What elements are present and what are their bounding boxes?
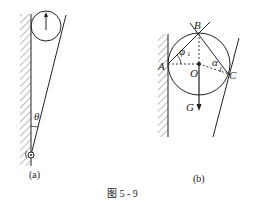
wall-hatch: [158, 34, 168, 137]
phi-subscript: 1: [187, 51, 191, 58]
panel-a-label: (a): [29, 170, 40, 180]
alpha-label: α: [212, 57, 218, 68]
arrowhead-icon: [44, 12, 48, 17]
panel-a: [20, 11, 66, 166]
panel-b-label: (b): [193, 174, 205, 184]
point-a-label: A: [158, 61, 165, 72]
theta-label: θ: [34, 111, 39, 122]
wall-hatch: [20, 14, 31, 166]
panel-b: [158, 22, 239, 137]
inclined-plane: [213, 38, 239, 137]
figure-caption: 图 5 - 9: [107, 189, 138, 199]
phi-label: φ: [179, 46, 185, 57]
inclined-rod: [31, 15, 66, 155]
theta-arc: [31, 126, 38, 127]
alpha-arc: [220, 67, 221, 72]
point-c-label: C: [229, 70, 236, 81]
gravity-label: G: [186, 102, 194, 113]
point-o-label: O: [190, 68, 198, 79]
arrow-down-icon: [197, 104, 202, 111]
point-b-label: B: [194, 20, 201, 31]
